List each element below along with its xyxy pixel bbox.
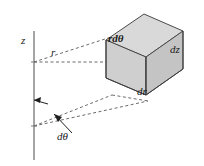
radius-label: r: [51, 47, 55, 58]
ray-upper-top: [34, 38, 108, 62]
angle-label: dθ: [57, 131, 68, 142]
z-axis-label: z: [21, 35, 25, 46]
radial-thickness-label: dr: [137, 86, 147, 97]
cylindrical-volume-element-diagram: [0, 0, 204, 166]
height-label: dz: [170, 44, 180, 55]
ray-lower-bottom: [34, 101, 148, 126]
figure-container: z r rdθ dz dr dθ: [0, 0, 204, 166]
arc-length-label: rdθ: [108, 33, 124, 44]
dtheta-arrow-upper: [34, 97, 48, 104]
ray-lower-top: [34, 95, 112, 126]
